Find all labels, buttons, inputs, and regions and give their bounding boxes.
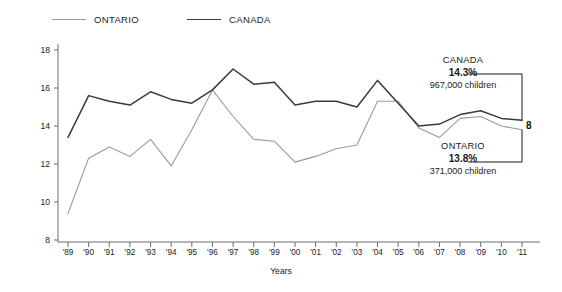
page-number: 8 <box>526 120 532 131</box>
annotation-canada-percent: 14.3% <box>404 67 522 80</box>
y-tick-label: 10 <box>28 197 50 207</box>
annotation-ontario-title: ONTARIO <box>404 140 522 153</box>
chart-figure: ONTARIO CANADA Per cent of children in l… <box>0 0 562 292</box>
x-axis-title: Years <box>0 266 562 276</box>
y-tick-label: 8 <box>28 235 50 245</box>
annotation-ontario-percent: 13.8% <box>404 153 522 166</box>
annotation-canada-title: CANADA <box>404 54 522 67</box>
x-tick-label: '11 <box>509 248 535 257</box>
y-tick-label: 18 <box>28 45 50 55</box>
annotation-canada-count: 967,000 children <box>404 79 522 92</box>
y-tick-label: 16 <box>28 83 50 93</box>
annotation-canada: CANADA 14.3% 967,000 children <box>404 54 522 92</box>
annotation-ontario-count: 371,000 children <box>404 165 522 178</box>
annotation-ontario: ONTARIO 13.8% 371,000 children <box>404 140 522 178</box>
y-tick-label: 14 <box>28 121 50 131</box>
y-tick-label: 12 <box>28 159 50 169</box>
